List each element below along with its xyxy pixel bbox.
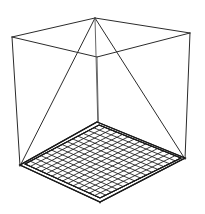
edge-top-front-to-top-right [97, 33, 190, 57]
floor-grid-plane [20, 122, 185, 202]
edge-top-back-to-top-left [12, 18, 95, 37]
edge-top-right-to-top-back [95, 18, 190, 33]
wireframe-figure [0, 0, 205, 214]
edge-left-vertical [12, 37, 20, 166]
wireframe-svg [0, 0, 205, 214]
edge-right-vertical [185, 33, 190, 159]
box-top-face [12, 18, 190, 57]
